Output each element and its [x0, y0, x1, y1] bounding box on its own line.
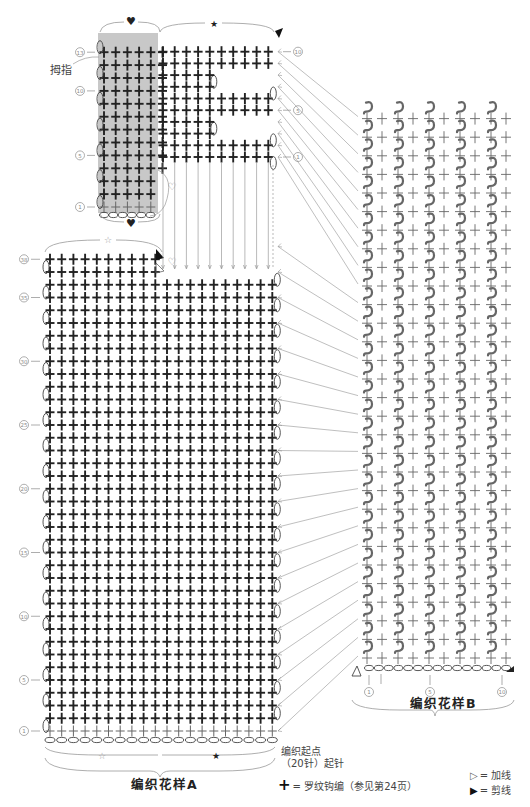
svg-text:38: 38 [21, 257, 28, 263]
legend-rib-text: = 罗纹钩编（参见第24页） [293, 781, 417, 792]
svg-text:5: 5 [22, 677, 26, 683]
svg-text:♥: ♥ [126, 15, 136, 28]
svg-text:1: 1 [78, 204, 82, 210]
thumb-label: 拇指 [50, 61, 72, 77]
svg-text:35: 35 [21, 295, 28, 301]
svg-text:♥: ♥ [126, 217, 136, 230]
svg-text:13: 13 [77, 50, 84, 56]
svg-text:10: 10 [295, 49, 302, 55]
svg-text:1: 1 [296, 154, 300, 160]
svg-text:5: 5 [78, 153, 82, 159]
svg-text:1: 1 [367, 689, 371, 695]
svg-text:15: 15 [21, 550, 28, 556]
svg-text:★: ★ [210, 19, 218, 29]
svg-text:♡: ♡ [168, 256, 177, 267]
legend-rib-crochet: += 罗纹钩编（参见第24页） [278, 776, 417, 794]
svg-text:20: 20 [21, 486, 28, 492]
svg-text:25: 25 [21, 422, 28, 428]
start-point-label: 编织起点 （20针）起针 [281, 746, 344, 770]
join-yarn-icon: ▷ [470, 770, 478, 781]
svg-text:10: 10 [21, 614, 28, 620]
svg-text:10: 10 [499, 689, 506, 695]
svg-text:30: 30 [21, 359, 28, 365]
cut-yarn-icon: ▶ [470, 785, 478, 796]
svg-text:1: 1 [22, 728, 26, 734]
svg-text:10: 10 [77, 88, 84, 94]
legend-cut-yarn: ▶= 剪线 [470, 782, 511, 797]
crochet-chart: 1510152025303538☆★☆151013♥♥♡♡★15101510 [0, 0, 530, 807]
pattern-b-title: 编织花样B [410, 693, 477, 712]
legend-cut-text: = 剪线 [480, 785, 512, 796]
svg-text:☆: ☆ [98, 751, 106, 761]
legend-join-yarn: ▷= 加线 [470, 767, 511, 782]
pattern-a-title: 编织花样A [131, 774, 198, 793]
svg-text:★: ★ [212, 751, 220, 761]
legend-join-text: = 加线 [480, 770, 512, 781]
start-point-line1: 编织起点 [281, 746, 344, 758]
start-point-line2: （20针）起针 [281, 758, 344, 770]
svg-text:☆: ☆ [104, 235, 112, 245]
single-crochet-rib-icon: + [278, 776, 291, 794]
